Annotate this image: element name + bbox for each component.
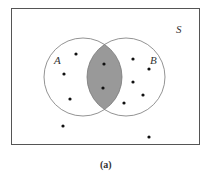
sample-point <box>131 80 134 83</box>
sample-point <box>68 97 71 100</box>
figure-caption: (a) <box>100 159 112 171</box>
set-b-label: B <box>150 54 157 66</box>
sample-point <box>62 72 65 75</box>
sample-point <box>61 124 64 127</box>
sample-point <box>147 135 150 138</box>
venn-diagram: S A B (a) <box>0 0 209 177</box>
sample-point <box>131 57 134 60</box>
sample-point <box>122 101 125 104</box>
sample-point <box>147 67 150 70</box>
sample-point <box>102 62 105 65</box>
sample-point <box>101 86 104 89</box>
sample-space-label: S <box>176 23 182 35</box>
sample-point <box>141 93 144 96</box>
set-a-label: A <box>53 54 61 66</box>
sample-point <box>74 52 77 55</box>
